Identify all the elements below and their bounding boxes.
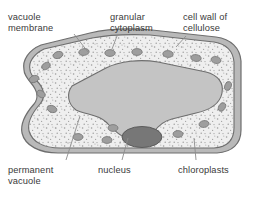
label-nucleus: nucleus	[98, 165, 156, 176]
label-granular-cytoplasm: granular cytoplasm	[110, 12, 172, 34]
nucleus-body	[122, 127, 162, 148]
chloroplast	[163, 50, 174, 58]
label-chloroplasts: chloroplasts	[178, 165, 252, 176]
plant-cell-diagram: vacuole membrane granular cytoplasm cell…	[0, 0, 255, 197]
chloroplast	[108, 125, 118, 132]
nucleus	[122, 127, 162, 148]
chloroplast	[102, 137, 112, 144]
label-vacuole-membrane: vacuole membrane	[8, 12, 80, 34]
label-permanent-vacuole: permanent vacuole	[8, 165, 80, 187]
label-cell-wall-of-cellulose: cell wall of cellulose	[183, 12, 253, 34]
chloroplast	[105, 50, 115, 57]
chloroplast	[173, 131, 183, 138]
chloroplast	[132, 49, 142, 56]
